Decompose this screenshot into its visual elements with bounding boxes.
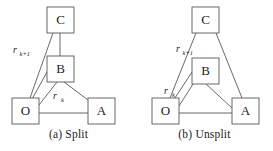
svg-text:k: k [172, 91, 175, 98]
edge-b-to-o-lower [179, 84, 193, 106]
node-b-label: B [201, 63, 210, 78]
edge-label-r-k: r k [53, 90, 64, 103]
node-b-label: B [56, 61, 65, 76]
figure-split-unsplit: C B O A r k+1 r k (a) [0, 0, 273, 151]
node-c: C [192, 7, 219, 33]
node-o: O [12, 98, 39, 124]
svg-text:k: k [61, 96, 64, 103]
svg-text:r: r [176, 43, 180, 54]
panel-unsplit: C B O A r k+1 r k (b) [136, 0, 273, 151]
edge-b-to-a [206, 84, 232, 108]
node-b: B [192, 58, 219, 84]
svg-text:k+1: k+1 [183, 49, 194, 56]
node-a-label: A [241, 103, 251, 118]
svg-text:r: r [53, 90, 57, 101]
edge-label-r-k: r k [164, 85, 175, 98]
node-c-label: C [201, 12, 210, 27]
caption-unsplit: (b) Unsplit [136, 128, 273, 140]
node-o-label: O [21, 103, 30, 118]
svg-text:r: r [13, 44, 17, 55]
edge-label-r-k-plus-1: r k+1 [176, 43, 193, 56]
edge-label-r-k-plus-1: r k+1 [13, 44, 30, 57]
node-o-label: O [161, 103, 170, 118]
edge-o-to-b [31, 72, 47, 101]
panel-split: C B O A r k+1 r k (a) [0, 0, 137, 151]
node-a: A [88, 98, 115, 124]
caption-split: (a) Split [0, 128, 137, 140]
svg-text:k+1: k+1 [20, 50, 31, 57]
svg-text:r: r [164, 85, 168, 96]
node-a-label: A [97, 103, 107, 118]
node-o: O [152, 98, 179, 124]
node-b: B [47, 56, 74, 82]
diagram-split: C B O A r k+1 r k [0, 0, 137, 128]
node-c: C [47, 7, 74, 33]
edge-c-to-a [216, 33, 242, 98]
diagram-unsplit: C B O A r k+1 r k [136, 0, 273, 128]
node-c-label: C [56, 12, 65, 27]
node-a: A [232, 98, 259, 124]
